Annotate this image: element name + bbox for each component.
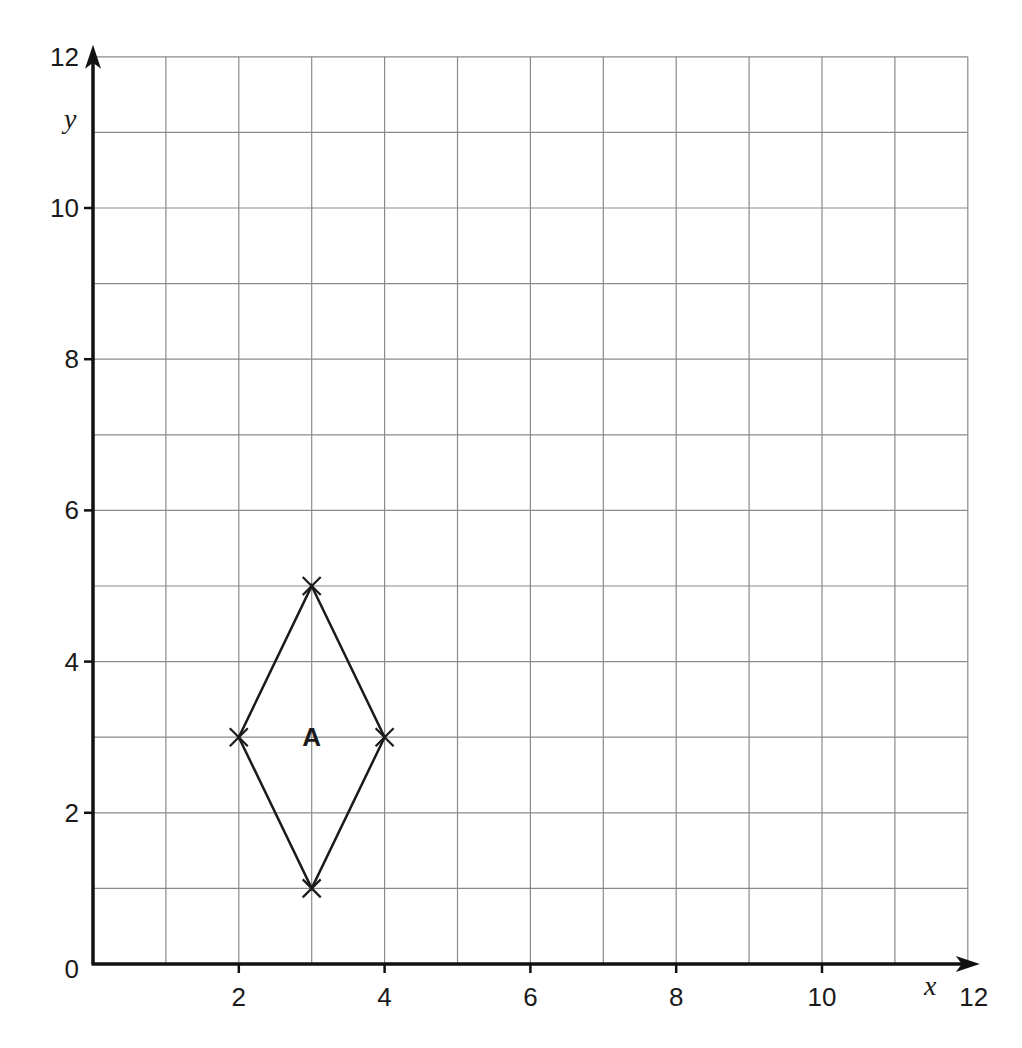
coordinate-grid-chart: 24681012024681012 A x y (0, 0, 1022, 1048)
y-tick-label: 4 (65, 647, 79, 677)
y-tick-label: 12 (50, 42, 79, 72)
x-tick-label: 8 (669, 982, 683, 1012)
x-tick-label: 6 (523, 982, 537, 1012)
axes (85, 45, 980, 972)
x-tick-label: 4 (377, 982, 391, 1012)
y-tick-label: 2 (65, 798, 79, 828)
x-tick-label: 10 (808, 982, 837, 1012)
x-axis-label: x (923, 970, 937, 1001)
tick-labels: 24681012024681012 (50, 42, 988, 1012)
y-axis-label: y (61, 103, 77, 134)
x-tick-label: 12 (959, 982, 988, 1012)
y-tick-label: 0 (65, 954, 79, 984)
y-tick-label: 8 (65, 344, 79, 374)
shape-label: A (302, 722, 321, 752)
y-tick-label: 6 (65, 495, 79, 525)
grid-lines (93, 57, 968, 964)
y-tick-label: 10 (50, 193, 79, 223)
x-tick-label: 2 (232, 982, 246, 1012)
